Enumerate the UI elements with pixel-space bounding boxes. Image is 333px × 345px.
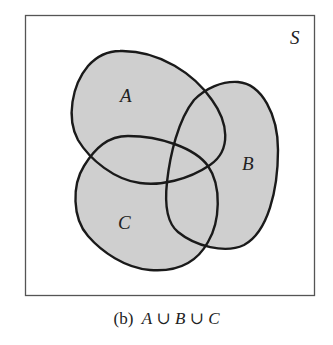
caption-set-a: A <box>142 309 152 328</box>
figure-caption: (b) A ∪ B ∪ C <box>0 308 333 329</box>
set-c-label: C <box>118 212 131 233</box>
venn-diagram: S A B C <box>0 0 333 345</box>
caption-set-c: C <box>208 309 219 328</box>
caption-union-2: ∪ <box>190 309 204 328</box>
set-a-label: A <box>118 85 132 106</box>
universe-label: S <box>290 27 300 48</box>
caption-union-1: ∪ <box>156 309 170 328</box>
set-b-label: B <box>242 153 254 174</box>
caption-set-b: B <box>175 309 185 328</box>
caption-prefix: (b) <box>114 309 134 328</box>
